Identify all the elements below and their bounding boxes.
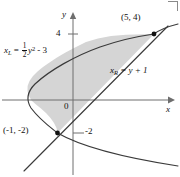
point-marker-5-4 — [152, 32, 157, 37]
right-eq-rest: = y + 1 — [120, 65, 147, 75]
right-curve-equation-label: xR = y + 1 — [110, 66, 148, 76]
y-axis-label: y — [62, 10, 66, 19]
x-axis-label: x — [166, 105, 170, 114]
origin-label: 0 — [64, 102, 69, 111]
left-eq-subscript: L — [8, 49, 12, 56]
left-eq-tail: - 3 — [37, 45, 47, 55]
left-eq-fraction: 1 2 — [22, 42, 28, 58]
y-tick-label-4: 4 — [56, 29, 61, 38]
y-axis-arrowhead — [70, 12, 76, 19]
left-curve-equation-label: xL = 1 2 y2 - 3 — [4, 42, 47, 58]
plot-svg — [0, 0, 180, 177]
y-tick-label-neg2: -2 — [85, 127, 93, 136]
point-label-lower: (-1, -2) — [3, 126, 29, 135]
left-eq-exponent: 2 — [32, 45, 35, 52]
point-label-upper: (5, 4) — [121, 13, 141, 22]
left-eq-numerator: 1 — [22, 42, 28, 50]
crop-mark-icon — [168, 1, 178, 11]
figure-panel: y x 0 4 -2 (5, 4) (-1, -2) xL = 1 2 y2 -… — [0, 0, 180, 177]
left-eq-equals: = — [14, 45, 19, 55]
right-eq-subscript: R — [114, 69, 118, 76]
point-marker-neg1-neg2 — [55, 131, 60, 136]
x-axis-arrowhead — [168, 97, 175, 104]
left-eq-denominator: 2 — [22, 50, 28, 59]
